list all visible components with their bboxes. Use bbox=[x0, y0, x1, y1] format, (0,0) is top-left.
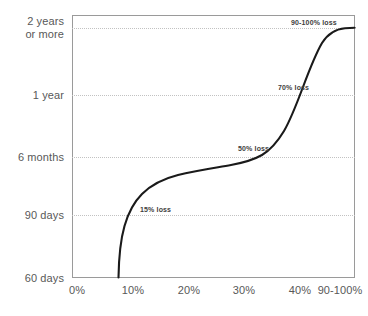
chart-container: 2 years or more 1 year 6 months 90 days … bbox=[0, 0, 368, 316]
x-tick-label-40: 40% bbox=[289, 284, 311, 297]
gridline-2-years bbox=[72, 28, 355, 29]
y-tick-label-1-year: 1 year bbox=[33, 89, 72, 102]
annotation-50-loss: 50% loss bbox=[238, 144, 269, 153]
y-tick-label-60-days: 60 days bbox=[25, 272, 72, 285]
y-tick-label-6-months: 6 months bbox=[18, 151, 72, 164]
x-tick-label-30: 30% bbox=[233, 284, 255, 297]
annotation-15-loss: 15% loss bbox=[140, 205, 171, 214]
y-tick-label-90-days: 90 days bbox=[25, 209, 72, 222]
gridline-90-days bbox=[72, 215, 355, 216]
y-tick-label-2-years: 2 years or more bbox=[25, 15, 72, 41]
gridline-6-months bbox=[72, 157, 355, 158]
x-tick-label-10: 10% bbox=[122, 284, 144, 297]
x-tick-label-20: 20% bbox=[178, 284, 200, 297]
x-tick-label-0: 0% bbox=[69, 284, 85, 297]
gridline-1-year bbox=[72, 95, 355, 96]
plot-area-frame bbox=[72, 15, 355, 278]
annotation-70-loss: 70% loss bbox=[278, 83, 309, 92]
x-tick-label-90-100: 90-100% bbox=[318, 284, 363, 297]
annotation-90-100-loss: 90-100% loss bbox=[291, 18, 337, 27]
